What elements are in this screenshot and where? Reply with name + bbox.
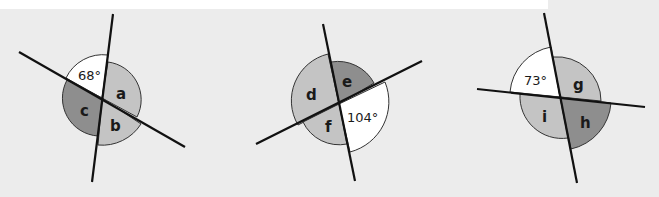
angle-label-c: c <box>80 102 89 120</box>
angle-label-e: e <box>342 73 352 91</box>
diagram-3: 73° g h i <box>477 13 645 183</box>
angle-label-104: 104° <box>347 110 378 125</box>
angle-label-i: i <box>542 108 547 126</box>
diagram-2: d e 104° f <box>256 24 422 181</box>
angle-label-h: h <box>580 114 591 132</box>
angle-diagrams: 68° a b c d e 104° f 73° g h i <box>0 0 659 197</box>
angle-label-b: b <box>110 117 121 135</box>
angle-label-f: f <box>325 118 332 136</box>
diagram-1: 68° a b c <box>19 14 185 182</box>
angle-label-d: d <box>306 86 317 104</box>
angle-label-g: g <box>573 76 584 94</box>
angle-label-73: 73° <box>524 73 547 88</box>
angle-label-68: 68° <box>78 68 101 83</box>
angle-label-a: a <box>116 85 126 103</box>
